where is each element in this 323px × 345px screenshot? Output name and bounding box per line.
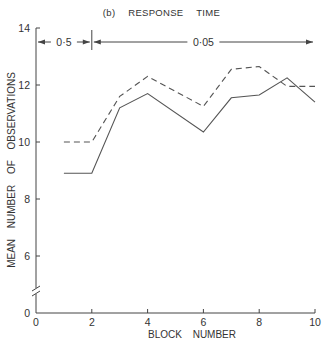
y-tick-label: 12 xyxy=(18,79,30,91)
y-tick-label: 8 xyxy=(24,193,30,205)
y-tick-label: 0 xyxy=(24,307,30,319)
arrow-head-icon xyxy=(306,40,313,45)
y-tick-label: 14 xyxy=(18,22,30,34)
x-tick-label: 4 xyxy=(145,316,151,328)
axes xyxy=(32,28,315,313)
y-tick-label: 6 xyxy=(24,250,30,262)
x-tick-label: 2 xyxy=(89,316,95,328)
arrow-head-icon xyxy=(83,40,90,45)
arrow-head-icon xyxy=(38,40,45,45)
annotation-label: 0·05 xyxy=(193,36,214,48)
x-tick-label: 0 xyxy=(33,316,39,328)
axis-ticks: 0681012140246810 xyxy=(18,22,321,328)
series-dashed xyxy=(64,67,315,143)
x-tick-label: 6 xyxy=(200,316,206,328)
range-annotations: 0·50·05 xyxy=(38,30,313,50)
annotation-label: 0·5 xyxy=(56,36,71,48)
line-chart: 0681012140246810 0·50·05 xyxy=(0,0,323,345)
series-solid xyxy=(64,78,315,173)
x-tick-label: 10 xyxy=(309,316,321,328)
y-tick-label: 10 xyxy=(18,136,30,148)
data-lines xyxy=(64,67,315,174)
arrow-head-icon xyxy=(94,40,101,45)
x-tick-label: 8 xyxy=(256,316,262,328)
